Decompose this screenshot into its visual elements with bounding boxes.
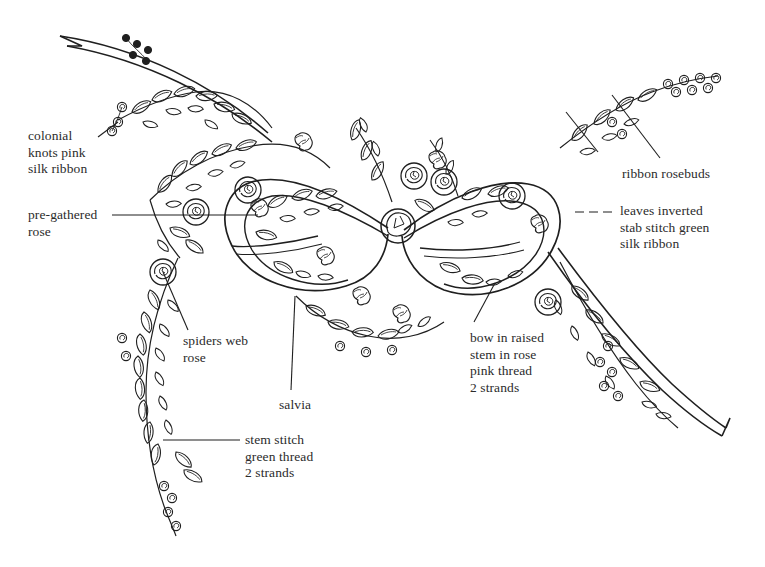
leader-lines <box>98 95 660 440</box>
garland-centre-bottom <box>296 296 444 357</box>
leader-salvia <box>291 296 295 390</box>
ribbon-tail-upper-left <box>60 36 272 142</box>
label-stem-stitch: stem stitch green thread 2 strands <box>245 432 313 482</box>
leader-ribbon-rosebuds-2 <box>566 112 598 152</box>
pattern-page: colonial knots pink silk ribbon pre-gath… <box>0 0 765 567</box>
leader-ribbon-rosebuds <box>612 95 660 158</box>
branch-upper-left-leaves <box>118 86 272 132</box>
branch-upper-right <box>560 73 721 155</box>
leader-spiders-web-rose <box>163 272 188 330</box>
label-leaves-inverted: leaves inverted stab stitch green silk r… <box>620 203 709 253</box>
label-bow-in-raised-stem: bow in raised stem in rose pink thread 2… <box>470 330 544 396</box>
branch-lower-left <box>117 258 203 536</box>
label-spiders-web-rose: spiders web rose <box>183 333 248 366</box>
ribbon-tail-lower-right <box>548 248 730 436</box>
embroidery-illustration <box>0 0 765 567</box>
leader-bow-raised-stem <box>474 283 495 322</box>
label-salvia: salvia <box>279 397 311 414</box>
label-pre-gathered-rose: pre-gathered rose <box>28 207 97 240</box>
colonial-knot-cluster-upper-left <box>107 34 151 135</box>
label-colonial-knots: colonial knots pink silk ribbon <box>28 128 87 178</box>
label-ribbon-rosebuds: ribbon rosebuds <box>622 166 710 183</box>
